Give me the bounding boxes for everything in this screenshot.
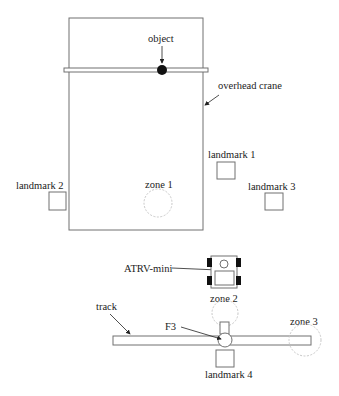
landmark-1-box <box>217 162 235 179</box>
overhead-crane-area <box>69 18 203 230</box>
robot-atrv-mini <box>207 256 241 288</box>
object-icon <box>157 65 167 75</box>
robot-label: ATRV-mini <box>124 263 172 274</box>
overhead-crane-arrow <box>205 95 219 105</box>
landmark-2-label: landmark 2 <box>16 180 64 191</box>
crane-rail <box>64 68 208 72</box>
f3-stem <box>220 322 229 334</box>
landmark-2-box <box>49 192 66 210</box>
wheel-icon <box>207 258 212 267</box>
landmark-4-label: landmark 4 <box>205 369 253 380</box>
track-bar <box>113 336 311 345</box>
f3-label: F3 <box>165 321 176 332</box>
workspace-diagram: object overhead crane landmark 1 landmar… <box>0 0 339 396</box>
overhead-crane-label: overhead crane <box>218 80 282 91</box>
landmark-3-label: landmark 3 <box>248 181 296 192</box>
zone-1-label: zone 1 <box>145 179 173 190</box>
zone-1-circle <box>144 189 172 217</box>
track-label: track <box>96 301 118 312</box>
wheel-icon <box>207 276 212 285</box>
object-label: object <box>148 33 174 44</box>
zone-2-label: zone 2 <box>210 293 238 304</box>
wheel-icon <box>236 276 241 285</box>
landmark-4-box <box>216 350 234 367</box>
wheel-icon <box>236 258 241 267</box>
landmark-1-label: landmark 1 <box>208 149 256 160</box>
landmark-3-box <box>265 193 283 210</box>
f3-turntable <box>218 333 232 347</box>
zone-3-label: zone 3 <box>290 316 318 327</box>
track-arrow <box>110 314 130 334</box>
